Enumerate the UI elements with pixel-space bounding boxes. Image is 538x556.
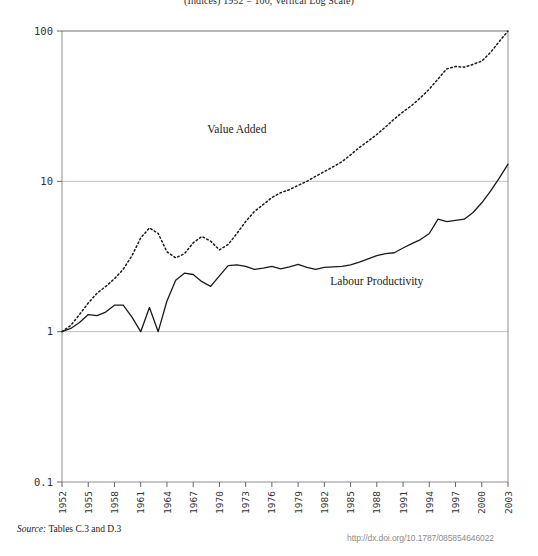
source-note: Source: Tables C.3 and D.3 [17, 524, 121, 534]
gridlines-group [62, 31, 508, 332]
x-axis-tick-label: 1967 [188, 491, 199, 514]
y-axis-tick-label: 100 [34, 25, 53, 37]
y-axis-tick-label: 10 [40, 175, 53, 187]
series-line [62, 164, 508, 331]
doi-link[interactable]: http://dx.doi.org/10.1787/085854646022 [347, 533, 494, 543]
y-axis-tick-label: 0.1 [34, 476, 53, 488]
x-axis-tick-label: 1976 [266, 491, 277, 514]
series-annotation-label: Labour Productivity [330, 275, 423, 288]
x-axis-tick-label: 1994 [424, 491, 435, 514]
x-axis-tick-label: 1997 [450, 491, 461, 514]
source-value: Tables C.3 and D.3 [46, 524, 121, 534]
x-axis-tick-label: 1970 [214, 491, 225, 514]
x-axis-labels-group: 1952195519581961196419671970197319761979… [57, 491, 514, 514]
x-axis-tick-label: 1979 [293, 491, 304, 514]
chart-plot: 0.1110100 195219551958196119641967197019… [0, 0, 538, 520]
tick-marks-group [57, 31, 508, 487]
x-axis-tick-label: 1991 [398, 491, 409, 514]
source-label: Source: [17, 524, 46, 534]
series-annotation-label: Value Added [207, 123, 266, 135]
x-axis-tick-label: 1952 [57, 491, 68, 514]
x-axis-tick-label: 1988 [371, 491, 382, 514]
figure-container: (Indices) 1952 = 100, Vertical Log Scale… [0, 0, 538, 556]
x-axis-tick-label: 1958 [109, 491, 120, 514]
x-axis-tick-label: 2003 [503, 491, 514, 514]
x-axis-tick-label: 1973 [240, 491, 251, 514]
x-axis-tick-label: 2000 [476, 491, 487, 514]
axes-group [62, 31, 508, 482]
x-axis-tick-label: 1961 [135, 491, 146, 514]
x-axis-tick-label: 1985 [345, 491, 356, 514]
y-axis-labels-group: 0.1110100 [34, 25, 53, 488]
x-axis-tick-label: 1982 [319, 491, 330, 514]
y-axis-tick-label: 1 [47, 325, 53, 337]
series-annotations-group: Value AddedLabour Productivity [207, 123, 423, 288]
x-axis-tick-label: 1964 [162, 491, 173, 514]
x-axis-tick-label: 1955 [83, 491, 94, 514]
